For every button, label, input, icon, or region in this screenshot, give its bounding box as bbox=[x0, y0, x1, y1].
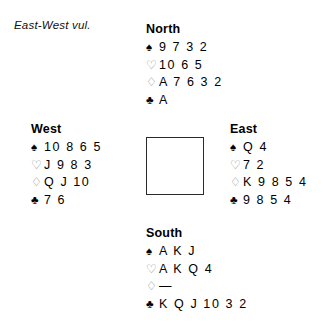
hand-east: East ♠ Q 4 ♡ 7 2 ♢ K 9 8 5 4 ♣ 9 8 5 4 bbox=[230, 122, 307, 209]
club-icon: ♣ bbox=[146, 296, 159, 314]
club-icon: ♣ bbox=[31, 192, 44, 210]
hand-north-diamonds-row: ♢ A 7 6 3 2 bbox=[146, 74, 223, 92]
hand-north: North ♠ 9 7 3 2 ♡ 10 6 5 ♢ A 7 6 3 2 ♣ A bbox=[146, 22, 223, 109]
hand-west-hearts-row: ♡ J 9 8 3 bbox=[31, 157, 102, 175]
hand-north-hearts-row: ♡ 10 6 5 bbox=[146, 57, 223, 75]
hand-east-hearts-row: ♡ 7 2 bbox=[230, 157, 307, 175]
hand-north-diamonds: A 7 6 3 2 bbox=[159, 74, 223, 92]
hand-east-diamonds-row: ♢ K 9 8 5 4 bbox=[230, 174, 307, 192]
hand-east-spades-row: ♠ Q 4 bbox=[230, 139, 307, 157]
hand-north-spades-row: ♠ 9 7 3 2 bbox=[146, 39, 223, 57]
hand-west-spades: 10 8 6 5 bbox=[44, 139, 102, 157]
diamond-icon: ♢ bbox=[146, 74, 159, 92]
hand-west-clubs: 7 6 bbox=[44, 192, 66, 210]
heart-icon: ♡ bbox=[230, 157, 243, 175]
diamond-icon: ♢ bbox=[230, 174, 243, 192]
hand-west-hearts: J 9 8 3 bbox=[44, 157, 93, 175]
club-icon: ♣ bbox=[230, 192, 243, 210]
heart-icon: ♡ bbox=[31, 157, 44, 175]
hand-east-diamonds: K 9 8 5 4 bbox=[243, 174, 307, 192]
hand-west-label: West bbox=[31, 122, 102, 136]
heart-icon: ♡ bbox=[146, 261, 159, 279]
hand-east-label: East bbox=[230, 122, 307, 136]
hand-south: South ♠ A K J ♡ A K Q 4 ♢ — ♣ K Q J 10 3… bbox=[146, 226, 248, 313]
hand-east-clubs-row: ♣ 9 8 5 4 bbox=[230, 192, 307, 210]
spade-icon: ♠ bbox=[146, 39, 159, 57]
hand-south-spades: A K J bbox=[159, 243, 196, 261]
vulnerability-label: East-West vul. bbox=[14, 19, 91, 31]
hand-north-clubs: A bbox=[159, 92, 169, 110]
hand-west-diamonds: Q J 10 bbox=[44, 174, 90, 192]
hand-east-clubs: 9 8 5 4 bbox=[243, 192, 292, 210]
hand-south-diamonds: — bbox=[159, 278, 173, 296]
club-icon: ♣ bbox=[146, 92, 159, 110]
hand-west-spades-row: ♠ 10 8 6 5 bbox=[31, 139, 102, 157]
hand-west-diamonds-row: ♢ Q J 10 bbox=[31, 174, 102, 192]
hand-north-label: North bbox=[146, 22, 223, 36]
hand-south-clubs-row: ♣ K Q J 10 3 2 bbox=[146, 296, 248, 314]
hand-north-clubs-row: ♣ A bbox=[146, 92, 223, 110]
hand-north-spades: 9 7 3 2 bbox=[159, 39, 208, 57]
hand-east-spades: Q 4 bbox=[243, 139, 268, 157]
heart-icon: ♡ bbox=[146, 57, 159, 75]
hand-south-label: South bbox=[146, 226, 248, 240]
diamond-icon: ♢ bbox=[146, 278, 159, 296]
spade-icon: ♠ bbox=[146, 243, 159, 261]
hand-south-diamonds-row: ♢ — bbox=[146, 278, 248, 296]
spade-icon: ♠ bbox=[230, 139, 243, 157]
spade-icon: ♠ bbox=[31, 139, 44, 157]
hand-south-hearts: A K Q 4 bbox=[159, 261, 213, 279]
hand-north-hearts: 10 6 5 bbox=[159, 57, 203, 75]
diamond-icon: ♢ bbox=[31, 174, 44, 192]
bridge-hand-diagram: East-West vul. North ♠ 9 7 3 2 ♡ 10 6 5 … bbox=[0, 0, 323, 322]
hand-east-hearts: 7 2 bbox=[243, 157, 265, 175]
hand-west-clubs-row: ♣ 7 6 bbox=[31, 192, 102, 210]
hand-south-spades-row: ♠ A K J bbox=[146, 243, 248, 261]
hand-south-hearts-row: ♡ A K Q 4 bbox=[146, 261, 248, 279]
hand-west: West ♠ 10 8 6 5 ♡ J 9 8 3 ♢ Q J 10 ♣ 7 6 bbox=[31, 122, 102, 209]
center-box bbox=[146, 137, 204, 195]
hand-south-clubs: K Q J 10 3 2 bbox=[159, 296, 248, 314]
